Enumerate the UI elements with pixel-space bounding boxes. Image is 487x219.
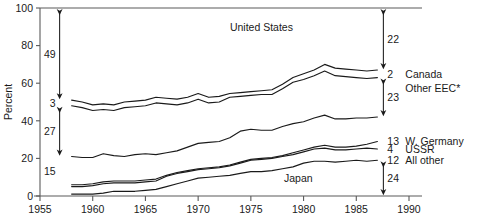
chart-figure: 0204060801001955196019651970197519801985… xyxy=(0,0,487,219)
annotations: 4932715222231341224 xyxy=(44,12,399,192)
x-tick-label-1990: 1990 xyxy=(397,203,421,215)
left-49-label: 49 xyxy=(44,48,56,60)
left-3-label: 3 xyxy=(50,97,56,109)
x-tick-label-1975: 1975 xyxy=(239,203,263,215)
series-line-w-germany xyxy=(72,141,378,184)
y-tick-label-40: 40 xyxy=(21,115,33,127)
series-line-united-states xyxy=(72,64,378,104)
series-name-other-eec: Other EEC* xyxy=(405,82,460,94)
right-24-label: 24 xyxy=(387,172,399,184)
right-4-label: 4 xyxy=(387,143,393,155)
right-23-label: 23 xyxy=(387,91,399,103)
right-12-label: 12 xyxy=(387,154,399,166)
y-tick-label-0: 0 xyxy=(27,190,33,202)
right-22-label: 22 xyxy=(387,33,399,45)
axes: 0204060801001955196019651970197519801985… xyxy=(2,2,422,215)
series-name-ussr: USSR xyxy=(405,143,435,155)
left-27-label: 27 xyxy=(44,125,56,137)
right-2-label: 2 xyxy=(387,68,393,80)
series-lines xyxy=(72,64,378,194)
x-tick-label-1980: 1980 xyxy=(292,203,316,215)
y-tick-label-80: 80 xyxy=(21,39,33,51)
y-tick-label-100: 100 xyxy=(15,2,33,14)
series-line-canada xyxy=(72,71,378,110)
x-tick-label-1960: 1960 xyxy=(81,203,105,215)
inline-label-united-states: United States xyxy=(230,21,293,33)
y-axis-title: Percent xyxy=(2,84,14,120)
x-tick-label-1985: 1985 xyxy=(345,203,369,215)
x-tick-label-1970: 1970 xyxy=(186,203,210,215)
series-line-other-eec xyxy=(72,115,378,157)
series-name-canada: Canada xyxy=(405,68,442,80)
y-tick-label-20: 20 xyxy=(21,152,33,164)
x-tick-label-1965: 1965 xyxy=(134,203,158,215)
y-tick-label-60: 60 xyxy=(21,77,33,89)
x-tick-label-1955: 1955 xyxy=(28,203,52,215)
inline-label-japan: Japan xyxy=(284,172,313,184)
left-15-label: 15 xyxy=(44,165,56,177)
line-chart-canvas: 0204060801001955196019651970197519801985… xyxy=(0,0,487,219)
series-name-all-other: All other xyxy=(405,154,444,166)
